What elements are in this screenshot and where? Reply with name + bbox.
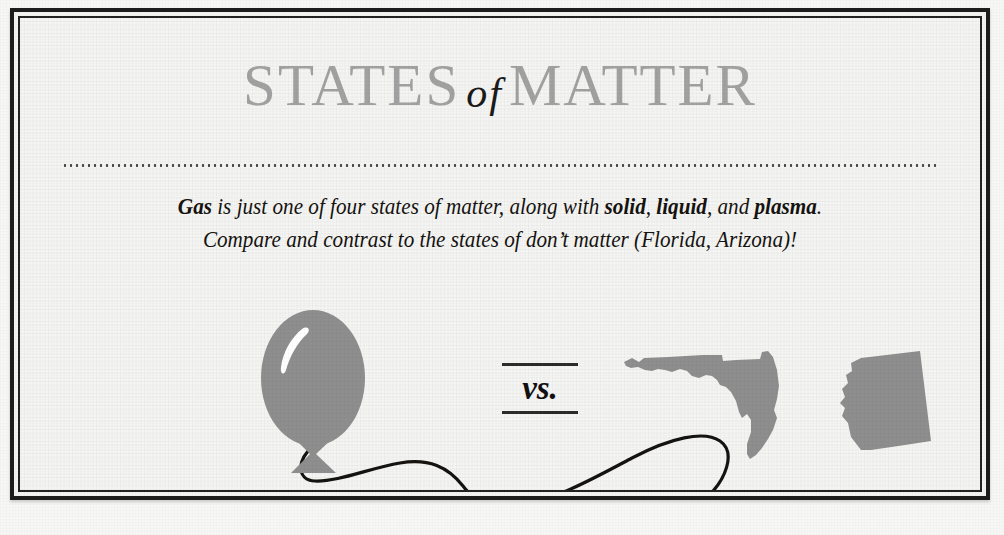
balloon-string-icon [301,436,728,492]
versus-rule-top [502,363,578,366]
versus-rule-bottom [502,411,578,414]
scanned-page: STATESofMATTER Gas is just one of four s… [0,0,1004,535]
florida-map-icon [624,351,779,459]
illustration-svg [20,18,982,492]
versus-label: vs. [492,371,588,407]
card-inner-frame: STATESofMATTER Gas is just one of four s… [18,16,982,492]
illustration-stage [20,18,980,490]
versus-badge: vs. [492,363,588,414]
balloon-icon [261,310,365,446]
states-of-matter-card: STATESofMATTER Gas is just one of four s… [10,8,990,500]
arizona-map-icon [840,351,931,450]
